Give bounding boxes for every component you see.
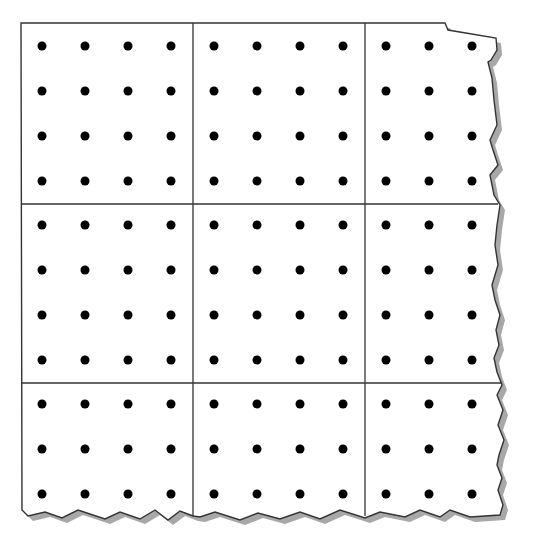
grid-dot [468,311,477,320]
grid-dot [210,221,219,230]
grid-dot [167,42,176,51]
grid-dot [167,311,176,320]
grid-dot [167,490,176,499]
grid-dot [167,266,176,275]
grid-dot [81,490,90,499]
grid-dot [339,311,348,320]
grid-dot [210,356,219,365]
grid-dot [382,311,391,320]
grid-dot [425,132,434,141]
grid-dot [382,356,391,365]
grid-dot [210,445,219,454]
grid-dot [382,177,391,186]
grid-dot [210,266,219,275]
grid-dot [38,132,47,141]
grid-dot [210,400,219,409]
grid-dot [38,221,47,230]
grid-dot [81,445,90,454]
grid-dot [296,87,305,96]
grid-dot [296,177,305,186]
grid-dot [296,400,305,409]
grid-dot [296,490,305,499]
grid-dot [468,132,477,141]
grid-dot [253,42,262,51]
grid-dot [382,400,391,409]
grid-dot [81,311,90,320]
grid-dot [210,132,219,141]
grid-dot [81,132,90,141]
grid-dot [124,42,133,51]
grid-dot [253,445,262,454]
grid-dot [468,87,477,96]
grid-dot [38,87,47,96]
grid-dot [38,177,47,186]
grid-dot [253,400,262,409]
grid-dot [468,400,477,409]
grid-dot [339,177,348,186]
grid-dot [124,490,133,499]
grid-dot [124,311,133,320]
grid-dot [38,445,47,454]
grid-dot [296,221,305,230]
grid-dot [296,132,305,141]
grid-dot [210,311,219,320]
grid-dot [38,490,47,499]
grid-dot [38,400,47,409]
grid-dot [425,266,434,275]
grid-dot [382,132,391,141]
grid-dot [81,87,90,96]
grid-dot [38,42,47,51]
grid-dot [468,356,477,365]
grid-dot [81,42,90,51]
grid-dot [296,311,305,320]
grid-dot [339,356,348,365]
grid-dot [296,42,305,51]
grid-dot [253,266,262,275]
grid-dot [253,87,262,96]
grid-dot [296,356,305,365]
grid-dot [210,177,219,186]
grid-dot [124,266,133,275]
dot-paper-sheet [0,0,539,543]
grid-dot [339,87,348,96]
grid-dot [124,445,133,454]
grid-dot [124,221,133,230]
grid-dot [425,400,434,409]
grid-dot [425,356,434,365]
grid-dot [81,356,90,365]
grid-dot [167,221,176,230]
grid-dot [382,445,391,454]
grid-dot [253,356,262,365]
grid-dot [339,42,348,51]
grid-dot [339,445,348,454]
grid-dot [468,221,477,230]
grid-dot [167,87,176,96]
grid-dot [339,132,348,141]
grid-dot [425,177,434,186]
grid-dot [124,356,133,365]
grid-dot [382,42,391,51]
grid-dot [167,400,176,409]
grid-dot [167,132,176,141]
grid-dot [468,177,477,186]
grid-dot [81,266,90,275]
grid-dot [38,356,47,365]
grid-dot [382,221,391,230]
grid-dot [253,177,262,186]
grid-dot [468,266,477,275]
grid-dot [339,221,348,230]
grid-dot [296,445,305,454]
grid-dot [167,177,176,186]
grid-dot [81,177,90,186]
grid-dot [210,490,219,499]
grid-dot [425,490,434,499]
grid-dot [167,356,176,365]
grid-dot [339,400,348,409]
grid-dot [382,490,391,499]
grid-dot [210,87,219,96]
grid-dot [253,132,262,141]
grid-dot [81,221,90,230]
grid-dot [468,490,477,499]
grid-dot [38,311,47,320]
grid-dot [124,132,133,141]
